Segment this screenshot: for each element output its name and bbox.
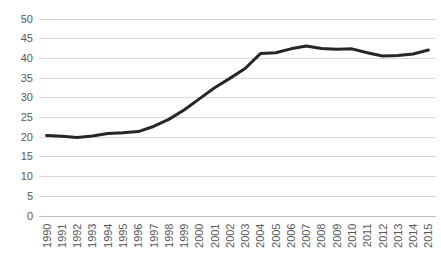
y-axis-tick-label: 10 xyxy=(21,170,33,182)
chart-canvas: 05101520253035404550 1990199119921993199… xyxy=(0,0,441,260)
x-axis-tick-labels: 1990199119921993199419951996199719981999… xyxy=(41,224,435,248)
y-axis-tick-label: 5 xyxy=(27,190,33,202)
y-axis-tick-label: 50 xyxy=(21,13,33,25)
y-axis-tick-label: 20 xyxy=(21,131,33,143)
x-axis-tick-label: 1998 xyxy=(163,224,175,248)
x-axis-tick-label: 1994 xyxy=(102,224,114,248)
x-axis-tick-label: 1996 xyxy=(132,224,144,248)
y-axis-tick-label: 30 xyxy=(21,91,33,103)
x-axis-tick-label: 2000 xyxy=(193,224,205,248)
y-axis-tick-label: 35 xyxy=(21,72,33,84)
x-axis-tick-label: 2014 xyxy=(407,224,419,248)
x-axis-tick-label: 2012 xyxy=(377,224,389,248)
y-axis-tick-label: 45 xyxy=(21,32,33,44)
x-axis-tick-label: 1997 xyxy=(148,224,160,248)
x-axis-tick-label: 2010 xyxy=(346,224,358,248)
x-axis-tick-label: 2009 xyxy=(331,224,343,248)
x-axis-tick-label: 1991 xyxy=(56,224,68,248)
data-line-series-1 xyxy=(47,46,429,137)
y-axis-tick-label: 40 xyxy=(21,52,33,64)
line-chart: 05101520253035404550 1990199119921993199… xyxy=(0,0,441,260)
x-axis-tick-label: 1993 xyxy=(86,224,98,248)
x-axis-tick-label: 2007 xyxy=(300,224,312,248)
y-axis-tick-label: 0 xyxy=(27,210,33,222)
x-axis-tick-label: 1992 xyxy=(71,224,83,248)
x-axis-tick-label: 2015 xyxy=(422,224,434,248)
x-axis-tick-label: 2006 xyxy=(285,224,297,248)
x-axis-tick-label: 2001 xyxy=(209,224,221,248)
x-axis-tick-label: 2005 xyxy=(270,224,282,248)
x-axis-tick-label: 2011 xyxy=(361,224,373,248)
x-axis-tick-label: 2013 xyxy=(392,224,404,248)
x-axis-tick-label: 1999 xyxy=(178,224,190,248)
x-axis-tick-label: 1990 xyxy=(41,224,53,248)
x-axis-tick-label: 2004 xyxy=(254,224,266,248)
y-axis-tick-label: 15 xyxy=(21,150,33,162)
x-axis-tick-label: 1995 xyxy=(117,224,129,248)
gridlines-group xyxy=(39,20,436,217)
data-series-group xyxy=(47,46,429,137)
x-axis-tick-label: 2002 xyxy=(224,224,236,248)
x-axis-tick-label: 2008 xyxy=(315,224,327,248)
x-axis-tick-label: 2003 xyxy=(239,224,251,248)
y-axis-tick-labels: 05101520253035404550 xyxy=(21,13,33,222)
y-axis-tick-label: 25 xyxy=(21,111,33,123)
